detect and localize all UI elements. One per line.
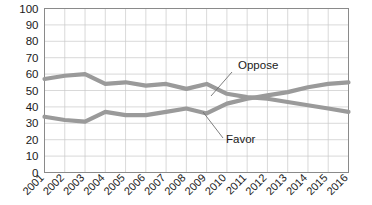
x-axis-tick-label: 2015 xyxy=(304,171,330,197)
series-line-oppose xyxy=(45,74,349,112)
data-series-group xyxy=(45,74,349,122)
y-axis-tick-label: 20 xyxy=(26,134,39,146)
x-axis-tick-label: 2012 xyxy=(243,171,269,197)
x-axis-tick-label: 2016 xyxy=(324,171,350,197)
x-axis-tick-label: 2008 xyxy=(162,171,188,197)
y-axis-tick-label: 60 xyxy=(26,68,39,80)
x-axis-tick-label: 2014 xyxy=(284,171,310,197)
x-axis-tick-label: 2001 xyxy=(20,171,46,197)
x-axis-tick-label: 2009 xyxy=(182,171,208,197)
x-axis-tick-labels: 2001200220032004200520062007200820092010… xyxy=(20,171,350,197)
x-axis-tick-label: 2011 xyxy=(223,171,248,196)
x-axis-tick-label: 2005 xyxy=(101,171,127,197)
line-chart-figure: 0102030405060708090100 20012002200320042… xyxy=(0,0,372,205)
y-axis-tick-label: 70 xyxy=(26,52,39,64)
y-axis-tick-label: 30 xyxy=(26,117,39,129)
x-axis-tick-label: 2006 xyxy=(121,171,147,197)
chart-canvas: 0102030405060708090100 20012002200320042… xyxy=(0,0,372,205)
x-axis-tick-label: 2010 xyxy=(203,171,229,197)
x-axis-tick-label: 2002 xyxy=(40,171,66,197)
annotation-leader-line-favor xyxy=(203,112,223,138)
y-axis-tick-label: 80 xyxy=(26,35,39,47)
series-label-favor: Favor xyxy=(226,133,256,145)
y-axis-tick-label: 50 xyxy=(26,85,39,97)
y-axis-tick-label: 10 xyxy=(26,150,39,162)
series-label-oppose: Oppose xyxy=(238,59,278,71)
x-axis-tick-label: 2003 xyxy=(61,171,87,197)
x-axis-tick-label: 2004 xyxy=(81,171,107,197)
y-axis-tick-label: 40 xyxy=(26,101,39,113)
x-axis-tick-label: 2007 xyxy=(142,171,168,197)
y-axis-tick-labels: 0102030405060708090100 xyxy=(19,3,38,179)
y-axis-tick-label: 100 xyxy=(19,3,38,15)
x-axis-tick-label: 2013 xyxy=(263,171,289,197)
y-axis-tick-label: 90 xyxy=(26,19,39,31)
